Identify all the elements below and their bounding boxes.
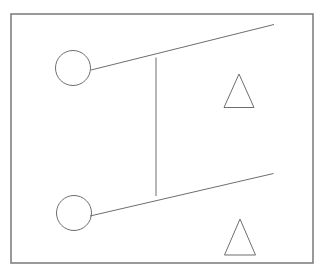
diagram-svg [0, 0, 329, 277]
upper-triangle [224, 74, 254, 108]
upper-diagonal-line [91, 25, 274, 71]
drawing-canvas [0, 0, 329, 277]
lower-circle [57, 196, 92, 231]
lower-triangle [225, 219, 256, 255]
upper-circle [56, 51, 91, 86]
lower-diagonal-line [90, 174, 274, 217]
border-frame [11, 14, 313, 263]
